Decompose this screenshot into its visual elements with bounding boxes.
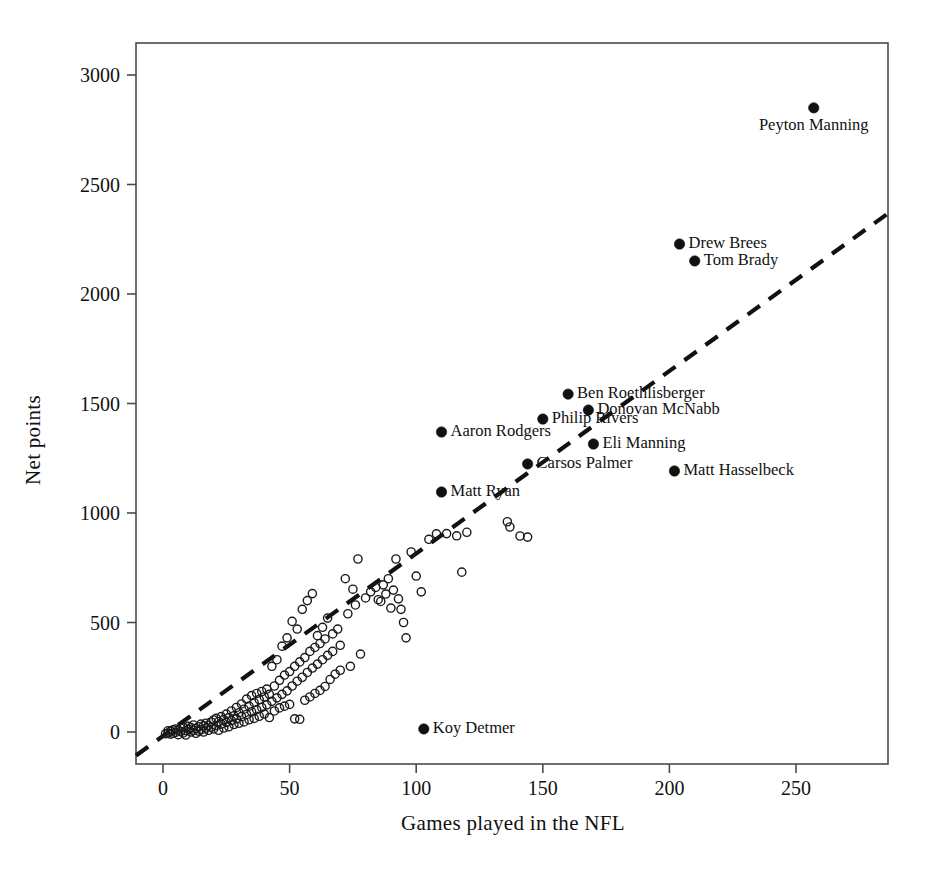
scatter-chart-figure: 050100150200250050010001500200025003000 … bbox=[0, 0, 931, 874]
data-point bbox=[516, 532, 524, 540]
data-point bbox=[384, 575, 392, 583]
data-point bbox=[288, 682, 296, 690]
data-point-labels: Peyton ManningDrew BreesTom BradyBen Roe… bbox=[433, 115, 869, 737]
data-point bbox=[394, 595, 402, 603]
data-point bbox=[412, 572, 420, 580]
x-tick-label: 200 bbox=[654, 777, 684, 799]
data-point-label: Tom Brady bbox=[704, 250, 779, 269]
x-tick-label: 0 bbox=[158, 777, 168, 799]
data-point bbox=[346, 662, 354, 670]
data-point-label: Eli Manning bbox=[602, 433, 685, 452]
data-point bbox=[344, 610, 352, 618]
data-point bbox=[286, 700, 294, 708]
data-point bbox=[308, 589, 316, 597]
data-point bbox=[397, 605, 405, 613]
data-point bbox=[293, 625, 301, 633]
data-point bbox=[280, 702, 288, 710]
labeled-data-point bbox=[522, 459, 532, 469]
data-point bbox=[318, 656, 326, 664]
x-tick-label: 150 bbox=[528, 777, 558, 799]
data-point-label: Carsos Palmer bbox=[537, 453, 633, 472]
data-point bbox=[336, 641, 344, 649]
y-tick-label: 0 bbox=[110, 721, 120, 743]
labeled-data-point bbox=[690, 256, 700, 266]
y-tick-label: 500 bbox=[90, 612, 120, 634]
data-point bbox=[425, 535, 433, 543]
x-tick-label: 250 bbox=[781, 777, 811, 799]
data-point bbox=[463, 528, 471, 536]
data-point bbox=[341, 575, 349, 583]
data-point bbox=[382, 590, 390, 598]
labeled-data-point bbox=[809, 103, 819, 113]
data-point bbox=[453, 532, 461, 540]
data-point bbox=[296, 658, 304, 666]
labeled-data-point bbox=[674, 239, 684, 249]
labeled-data-point bbox=[419, 724, 429, 734]
data-point bbox=[524, 533, 532, 541]
x-axis-title: Games played in the NFL bbox=[401, 811, 625, 835]
data-point bbox=[402, 634, 410, 642]
plot-canvas: 050100150200250050010001500200025003000 … bbox=[0, 0, 931, 874]
data-point bbox=[283, 634, 291, 642]
data-point bbox=[291, 662, 299, 670]
unlabeled-data-points bbox=[161, 518, 531, 740]
data-point-label: Koy Detmer bbox=[433, 718, 516, 737]
y-axis-title: Net points bbox=[21, 395, 45, 485]
data-point-label: Aaron Rodgers bbox=[451, 421, 551, 440]
data-point bbox=[296, 715, 304, 723]
labeled-data-point bbox=[436, 487, 446, 497]
data-point bbox=[298, 605, 306, 613]
data-point bbox=[318, 623, 326, 631]
data-point bbox=[356, 650, 364, 658]
plot-frame bbox=[136, 43, 888, 764]
data-point bbox=[349, 585, 357, 593]
data-point bbox=[377, 597, 385, 605]
labeled-data-point bbox=[563, 389, 573, 399]
data-point bbox=[321, 635, 329, 643]
y-tick-label: 1000 bbox=[80, 502, 120, 524]
data-point bbox=[389, 586, 397, 594]
x-tick-label: 50 bbox=[280, 777, 300, 799]
data-point bbox=[334, 625, 342, 633]
data-point bbox=[367, 588, 375, 596]
data-point bbox=[273, 656, 281, 664]
data-point bbox=[326, 675, 334, 683]
data-point bbox=[387, 604, 395, 612]
data-point bbox=[442, 529, 450, 537]
data-point bbox=[351, 601, 359, 609]
data-point-label: Philip Rivers bbox=[552, 408, 639, 427]
data-point-label: Matt Hasselbeck bbox=[683, 460, 794, 479]
labeled-data-point bbox=[436, 427, 446, 437]
y-tick-label: 2500 bbox=[80, 174, 120, 196]
labeled-data-point bbox=[669, 466, 679, 476]
data-point bbox=[458, 568, 466, 576]
data-point-label: Matt Ryan bbox=[451, 481, 520, 500]
data-point bbox=[392, 555, 400, 563]
data-point bbox=[399, 618, 407, 626]
data-point-label: Peyton Manning bbox=[759, 115, 869, 134]
data-point bbox=[354, 555, 362, 563]
y-tick-label: 2000 bbox=[80, 283, 120, 305]
y-tick-label: 3000 bbox=[80, 64, 120, 86]
data-point bbox=[417, 588, 425, 596]
data-point bbox=[288, 617, 296, 625]
data-point bbox=[275, 676, 283, 684]
plot-frame-rect bbox=[136, 43, 888, 764]
data-point bbox=[303, 668, 311, 676]
x-tick-label: 100 bbox=[401, 777, 431, 799]
labeled-data-point bbox=[588, 439, 598, 449]
y-tick-label: 1500 bbox=[80, 393, 120, 415]
data-point bbox=[329, 630, 337, 638]
